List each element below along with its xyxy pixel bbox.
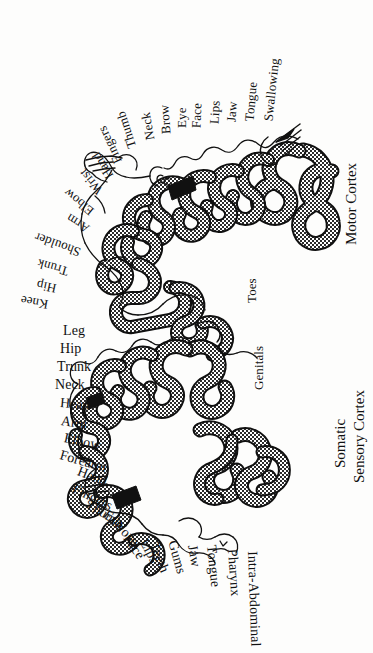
homunculus-figure: ToesKneeHipTrunkShoulderArmElbowWristHan… [0,0,373,653]
sensory_labels-label: Head [59,396,90,413]
sensory_labels-label: Neck [55,378,85,392]
motor_labels-label: Tongue [243,81,259,121]
motor_labels-label: Eye [175,107,188,128]
sensory_labels-label: Hip [60,342,81,356]
sensory_labels-label: Intra-Abdominal [245,551,262,647]
sensory_labels-label: Jaw [185,544,203,568]
swallowing-throat-glyph [260,124,301,178]
motor_labels-label: Hip [35,279,57,296]
sensory_labels-label: Genitals [252,346,265,390]
motor_labels-label: Face [190,103,204,128]
sensory-cortex-title-line1: Somatic [332,419,349,468]
motor_labels-label: Lips [208,100,222,124]
sensory_labels-label: Trunk [57,360,91,374]
motor-cortex-title: Motor Cortex [343,163,360,245]
sensory_labels-label: Pharynx [225,549,242,597]
sensory_labels-label: Leg [63,324,85,338]
motor_labels-label: Jaw [225,101,239,122]
motor_labels-label: Toes [245,278,258,303]
sensory-cortex-title-line2: Sensory Cortex [351,390,368,483]
motor_labels-label: Brow [157,104,172,134]
